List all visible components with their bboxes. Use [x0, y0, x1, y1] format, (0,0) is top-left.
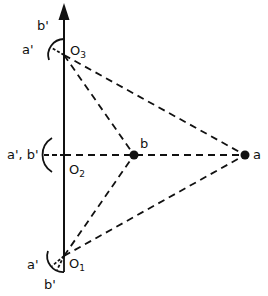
label-o3-b-prime: b' [37, 18, 49, 33]
sight-lines [64, 55, 245, 256]
label-o2-ab-prime: a', b' [7, 147, 39, 162]
label-point-a: a [253, 147, 261, 162]
label-o3-a-prime: a' [22, 42, 34, 57]
o2-angle-arc [43, 138, 64, 172]
o1-angle-arc [47, 251, 64, 272]
triangulation-diagram: b' a' O3 a', b' O2 a' b' O1 b a [0, 0, 268, 296]
axis-arrowhead [59, 3, 70, 20]
line-o3-a [64, 55, 245, 155]
line-o1-a [64, 155, 245, 256]
label-point-b: b [140, 136, 148, 151]
label-o2: O2 [69, 162, 85, 179]
label-o3: O3 [70, 43, 86, 60]
o3-angle-arc [48, 39, 64, 60]
line-o3-b [64, 55, 134, 155]
label-o1-a-prime: a' [27, 257, 39, 272]
point-b-dot [130, 151, 139, 160]
label-o1: O1 [69, 256, 85, 273]
point-a-dot [241, 151, 250, 160]
label-o1-b-prime: b' [44, 277, 56, 292]
